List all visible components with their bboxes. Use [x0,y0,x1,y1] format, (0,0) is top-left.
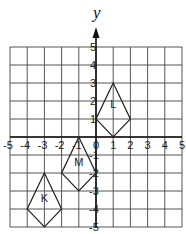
x-tick-label: -3 [38,139,48,151]
y-tick-label: -4 [89,203,99,215]
x-tick-label: -5 [3,139,13,151]
y-axis-title: y [91,3,101,22]
x-tick-label: 4 [162,139,168,151]
x-tick-label: 1 [110,139,116,151]
coordinate-plane: y -5-4-3-2-1012345 54321-1-2-3-4-5 LMK [0,0,186,234]
y-tick-label: -1 [89,149,99,161]
shape-label: L [110,98,116,110]
shape-label: M [74,156,83,168]
x-tick-label: 2 [127,139,133,151]
x-tick-label: -4 [20,139,30,151]
y-tick-label: 3 [90,77,96,89]
y-tick-label: 2 [90,95,96,107]
y-tick-label: -5 [89,221,99,233]
x-tick-label: -2 [55,139,65,151]
y-axis-arrow-icon [93,27,100,38]
y-tick-label: -3 [89,185,99,197]
x-tick-label: 5 [179,139,185,151]
y-tick-label: 4 [90,59,96,71]
y-tick-label: 5 [90,41,96,53]
shape-label: K [41,192,49,204]
y-tick-label: 1 [90,113,96,125]
x-tick-label: 3 [145,139,151,151]
